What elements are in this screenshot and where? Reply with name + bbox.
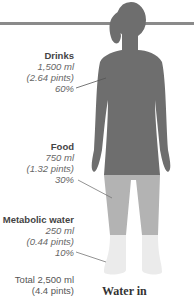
drinks-label: Drinks 1,500 ml (2.64 pints) 60%	[26, 50, 74, 94]
metabolic-leader-line	[76, 252, 106, 262]
metabolic-water-label: Metabolic water 250 ml (0.44 pints) 10%	[3, 214, 74, 258]
food-region	[80, 175, 180, 235]
metabolic-region	[80, 235, 180, 285]
food-label: Food 750 ml (1.32 pints) 30%	[26, 141, 74, 185]
diagram-caption: Water in	[102, 284, 147, 298]
drinks-region	[80, 0, 180, 175]
total-label: Total 2,500 ml (4.4 pints)	[15, 274, 74, 296]
